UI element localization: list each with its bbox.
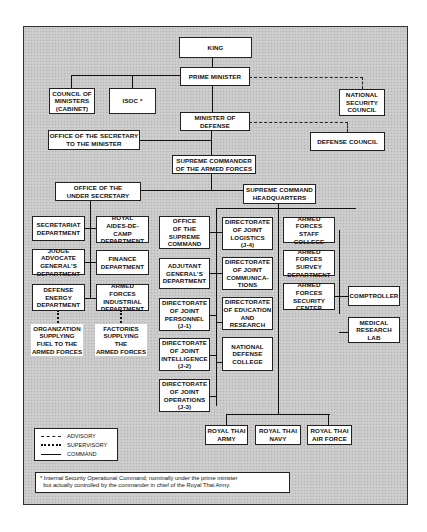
advisory-line-nsc-drop — [362, 77, 363, 89]
node-af-survey-department: ARMED FORCES SURVEY DEPARTMENT — [283, 250, 335, 276]
line-right-col-spine — [339, 230, 340, 314]
dashed-line-icon — [41, 436, 61, 437]
advisory-line-mod-dc — [249, 122, 348, 123]
node-supreme-commander: SUPREME COMMANDER OF THE ARMED FORCES — [172, 155, 256, 174]
line-to-council — [71, 75, 72, 88]
line-army — [226, 414, 227, 425]
dotted-line-icon — [41, 444, 61, 446]
line-j3 — [210, 396, 216, 397]
node-medical-research-lab: MEDICAL RESEARCH LAB — [348, 317, 400, 343]
node-royal-thai-air-force: ROYAL THAI AIR FORCE — [307, 425, 352, 445]
node-defense-council: DEFENSE COUNCIL — [310, 132, 385, 151]
legend: ADVISORY SUPERVISORY COMMAND — [34, 428, 118, 461]
node-af-staff-college: ARMED FORCES STAFF COLLEGE — [283, 217, 335, 243]
node-af-security-center: ARMED FORCES SECURITY CENTER — [283, 283, 335, 310]
node-org-supplying-fuel: ORGANIZATION SUPPLYING FUEL TO THE ARMED… — [31, 324, 83, 356]
line-osc — [210, 232, 222, 233]
node-judge-advocate: JUDGE ADVOCATE GENERAL'S DEPARTMENT — [32, 249, 85, 275]
line-af — [328, 414, 329, 425]
node-factories-supplying: FACTORIES SUPPLYING THE ARMED FORCES — [95, 324, 147, 356]
legend-item-advisory: ADVISORY — [41, 432, 96, 440]
node-dir-joint-personnel: DIRECTORATE OF JOINT PERSONNEL (J-1) — [159, 298, 210, 331]
node-dir-joint-intelligence: DIRECTORATE OF JOINT INTELLIGENCE (J-2) — [159, 338, 210, 371]
line-agd — [210, 273, 222, 274]
line-ous-schq — [140, 190, 255, 191]
node-royal-aides-de-camp: ROYAL AIDES-DE-CAMP DEPARTMENT — [96, 216, 149, 243]
node-dir-joint-operations: DIRECTORATE OF JOINT OPERATIONS (J-3) — [159, 379, 210, 412]
node-office-under-secretary: OFFICE OF THE UNDER SECRETARY — [55, 182, 141, 201]
node-national-security-council: NATIONAL SECURITY COUNCIL — [339, 89, 385, 116]
node-supreme-command-hq: SUPREME COMMAND HEADQUARTERS — [243, 184, 316, 204]
node-council-of-ministers: COUNCIL OF MINISTERS (CABINET) — [49, 88, 95, 114]
line-schq-spine — [278, 204, 279, 414]
legend-item-command: COMMAND — [41, 450, 97, 458]
node-dir-joint-communications: DIRECTORATE OF JOINT COMMUNICA- TIONS — [222, 257, 273, 290]
footnote: * Internal Security Operational Command;… — [35, 472, 290, 493]
node-adjutant-general: ADJUTANT GENERAL'S DEPARTMENT — [159, 258, 210, 289]
advisory-line-dc-drop — [347, 122, 348, 132]
line-scaf-down — [211, 173, 212, 190]
node-prime-minister: PRIME MINISTER — [180, 67, 250, 86]
line-ous-spine — [90, 201, 91, 299]
node-dir-education-research: DIRECTORATE OF EDUCATION AND RESEARCH — [222, 297, 273, 330]
node-defense-energy: DEFENSE ENERGY DEPARTMENT — [32, 284, 85, 311]
node-office-supreme-command: OFFICE OF THE SUPREME COMMAND — [159, 216, 210, 249]
supervisory-line-ded — [57, 310, 59, 323]
node-dir-joint-logistics: DIRECTORATE OF JOINT LOGISTICS (J-4) — [222, 217, 273, 250]
line-mod-scaf — [211, 131, 212, 155]
node-national-defense-college: NATIONAL DEFENSE COLLEGE — [222, 337, 273, 371]
line-schq-branch — [216, 208, 356, 209]
line-to-isoc — [132, 75, 133, 88]
node-comptroller: COMPTROLLER — [348, 286, 400, 306]
line-pm-mod — [212, 86, 213, 113]
solid-line-icon — [41, 454, 61, 455]
node-royal-thai-navy: ROYAL THAI NAVY — [255, 425, 301, 445]
node-king: KING — [179, 37, 252, 58]
node-royal-thai-army: ROYAL THAI ARMY — [205, 425, 248, 445]
advisory-line-pm-nsc — [249, 77, 363, 78]
line-left-col-spine — [216, 208, 217, 406]
node-secretariat: SECRETARIAT DEPARTMENT — [32, 216, 85, 241]
node-minister-of-defense: MINISTER OF DEFENSE — [180, 112, 250, 131]
line-pm-left — [71, 75, 181, 76]
node-isoc: ISOC * — [109, 88, 156, 114]
line-j2 — [210, 355, 216, 356]
line-j1 — [210, 315, 216, 316]
node-armed-forces-industrial: ARMED FORCES INDUSTRIAL DEPARTMENT — [96, 284, 149, 311]
node-office-secretary-minister: OFFICE OF THE SECRETARY TO THE MINISTER — [48, 130, 140, 150]
line-osm — [139, 140, 212, 141]
line-forces — [226, 414, 330, 415]
node-finance: FINANCE DEPARTMENT — [96, 250, 149, 275]
legend-item-supervisory: SUPERVISORY — [41, 441, 107, 449]
